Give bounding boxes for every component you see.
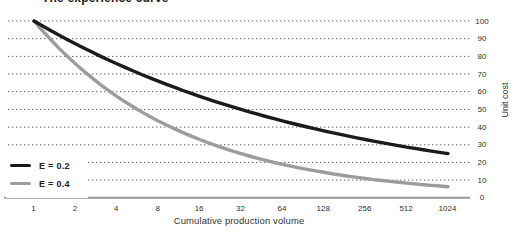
legend-label-e02: E = 0.2 [39,161,70,171]
x-tick-label-1: 1 [18,204,50,213]
y-tick-label-50: 50 [470,105,494,114]
y-tick-label-10: 10 [470,176,494,185]
legend-swatch-gray-line [10,182,31,186]
y-tick-label-60: 60 [470,87,494,96]
legend-item-e04: E = 0.4 [10,177,88,190]
x-tick-label-16: 16 [183,204,215,213]
legend-swatch-black-line [10,164,31,168]
x-tick-label-256: 256 [349,204,381,213]
plot-area [0,0,514,238]
legend-item-e02: E = 0.2 [10,159,88,172]
x-tick-label-2: 2 [59,204,91,213]
x-tick-label-8: 8 [142,204,174,213]
x-tick-label-1024: 1024 [432,204,464,213]
y-tick-label-70: 70 [470,70,494,79]
y-tick-label-40: 40 [470,123,494,132]
x-tick-label-512: 512 [390,204,422,213]
x-axis-title: Cumulative production volume [8,215,470,226]
x-tick-label-4: 4 [100,204,132,213]
experience-curve-chart: The experience curve 1248163264128256512… [0,0,514,238]
x-tick-label-32: 32 [225,204,257,213]
y-tick-label-0: 0 [470,193,494,202]
y-tick-label-100: 100 [470,17,494,26]
curve-e=0.4 [34,21,448,187]
y-tick-label-20: 20 [470,158,494,167]
y-tick-label-90: 90 [470,34,494,43]
x-tick-label-64: 64 [266,204,298,213]
x-tick-label-128: 128 [307,204,339,213]
curves [34,21,448,187]
legend-label-e04: E = 0.4 [39,179,70,189]
curve-e=0.2 [34,21,448,154]
legend: E = 0.2 E = 0.4 [6,156,88,198]
y-tick-label-30: 30 [470,140,494,149]
y-tick-label-80: 80 [470,52,494,61]
y-axis-title: Unit cost [500,50,512,150]
